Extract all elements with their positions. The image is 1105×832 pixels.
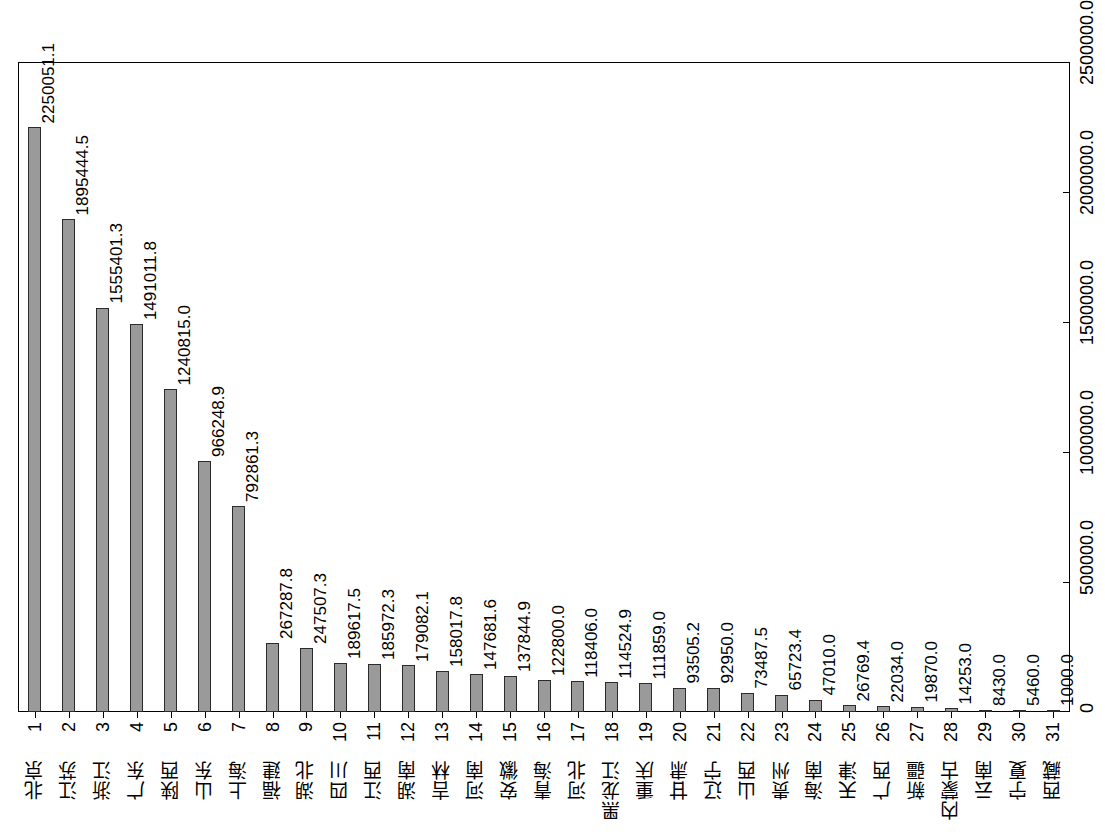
category-name-label: 天津 — [839, 760, 859, 800]
bar-value-label: 22034.0 — [889, 641, 906, 702]
category-tick — [69, 712, 70, 718]
bar — [741, 693, 754, 712]
bar-value-label: 5460.0 — [1025, 654, 1042, 706]
bar-value-label: 65723.4 — [787, 629, 804, 690]
bar-value-label: 118406.0 — [583, 608, 600, 678]
category-rank-label: 20 — [671, 722, 689, 742]
category-rank-label: 18 — [603, 722, 621, 742]
bar-value-label: 267287.8 — [278, 568, 295, 639]
bar-value-label: 147681.6 — [482, 599, 499, 670]
category-rank-label: 9 — [297, 722, 315, 732]
bar — [809, 700, 822, 712]
category-tick — [35, 712, 36, 718]
value-axis: 0500000.01000000.01500000.02000000.02500… — [1070, 62, 1105, 712]
bar — [504, 676, 517, 712]
category-tick — [646, 712, 647, 718]
category-tick — [442, 712, 443, 718]
category-rank-label: 22 — [739, 722, 757, 742]
bar-value-label: 185972.3 — [380, 589, 397, 660]
category-rank-label: 24 — [806, 722, 824, 742]
category-tick — [306, 712, 307, 718]
value-axis-label: 2500000.0 — [1078, 0, 1096, 85]
category-tick — [544, 712, 545, 718]
category-rank-label: 5 — [162, 722, 180, 732]
bar — [232, 506, 245, 712]
category-name-label: 广东 — [127, 760, 147, 800]
value-axis-label: 2000000.0 — [1078, 130, 1096, 215]
category-rank-label: 25 — [840, 722, 858, 742]
category-tick — [680, 712, 681, 718]
category-rank-label: 30 — [1010, 722, 1028, 742]
value-tick — [1063, 322, 1070, 323]
value-axis-label: 0 — [1078, 703, 1096, 713]
category-tick — [985, 712, 986, 718]
category-name-label: 山西 — [738, 760, 758, 800]
bar — [300, 648, 313, 712]
category-tick — [612, 712, 613, 718]
category-rank-label: 17 — [569, 722, 587, 742]
category-tick — [374, 712, 375, 718]
category-tick — [103, 712, 104, 718]
category-tick — [171, 712, 172, 718]
bars-layer: 2250051.11895444.51555401.31491011.81240… — [18, 62, 1070, 712]
bar-value-label: 1555401.3 — [108, 223, 125, 303]
category-name-label: 河北 — [568, 760, 588, 800]
category-rank-label: 6 — [196, 722, 214, 732]
bar — [96, 308, 109, 712]
category-tick — [408, 712, 409, 718]
bar — [28, 127, 41, 712]
category-tick — [815, 712, 816, 718]
category-name-label: 江西 — [364, 760, 384, 800]
bar — [639, 683, 652, 712]
category-rank-label: 12 — [399, 722, 417, 742]
bar-value-label: 26769.4 — [855, 640, 872, 701]
category-name-label: 陕西 — [161, 760, 181, 800]
category-name-label: 湖南 — [398, 760, 418, 800]
bar — [368, 664, 381, 712]
category-rank-label: 31 — [1044, 722, 1062, 742]
category-tick — [205, 712, 206, 718]
value-axis-label: 1000000.0 — [1078, 390, 1096, 475]
category-tick — [883, 712, 884, 718]
bar-value-label: 1895444.5 — [74, 135, 91, 215]
bar-value-label: 189617.5 — [346, 588, 363, 659]
bar-value-label: 2250051.1 — [40, 43, 57, 123]
category-name-label: 北京 — [25, 760, 45, 800]
value-tick — [1063, 582, 1070, 583]
bar — [673, 688, 686, 712]
category-rank-label: 19 — [637, 722, 655, 742]
bar-chart: 2250051.11895444.51555401.31491011.81240… — [0, 0, 1105, 832]
bar — [470, 674, 483, 712]
bar-value-label: 247507.3 — [312, 573, 329, 644]
category-name-label: 贵州 — [772, 760, 792, 800]
category-name-label: 新疆 — [907, 760, 927, 800]
bar — [843, 705, 856, 712]
category-tick — [849, 712, 850, 718]
category-rank-label: 3 — [94, 722, 112, 732]
bar-value-label: 8430.0 — [991, 654, 1008, 706]
bar — [538, 680, 551, 712]
category-tick — [1019, 712, 1020, 718]
category-rank-label: 23 — [773, 722, 791, 742]
category-name-label: 江苏 — [59, 760, 79, 800]
bar-value-label: 792861.3 — [244, 431, 261, 502]
bar-value-label: 137844.9 — [516, 601, 533, 672]
bar-value-label: 14253.0 — [957, 643, 974, 704]
value-tick — [1063, 192, 1070, 193]
category-name-label: 西藏 — [1043, 760, 1063, 800]
bar-value-label: 1240815.0 — [176, 305, 193, 385]
category-rank-label: 13 — [433, 722, 451, 742]
category-name-label: 重庆 — [636, 760, 656, 800]
bar-value-label: 93505.2 — [685, 622, 702, 683]
bar — [130, 324, 143, 712]
bar — [266, 643, 279, 712]
category-rank-label: 7 — [230, 722, 248, 732]
category-name-label: 辽宁 — [704, 760, 724, 800]
category-rank-label: 21 — [705, 722, 723, 742]
category-rank-label: 4 — [128, 722, 146, 732]
category-name-label: 海南 — [805, 760, 825, 800]
bar — [334, 663, 347, 712]
category-tick — [1053, 712, 1054, 718]
category-tick — [476, 712, 477, 718]
category-tick — [137, 712, 138, 718]
